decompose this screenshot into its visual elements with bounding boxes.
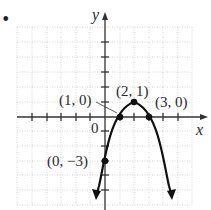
y-axis-label: y: [90, 6, 100, 24]
leader-line: [96, 102, 117, 113]
point-y-intercept: [102, 158, 109, 165]
label-x-intercept-1: (1, 0): [59, 92, 92, 109]
origin-label: 0: [91, 120, 99, 136]
x-axis: [17, 114, 208, 120]
label-y-intercept: (0, −3): [47, 153, 88, 170]
point-x-intercept-1: [117, 114, 124, 121]
arrow-down-right-icon: [167, 189, 176, 200]
x-axis-label: x: [195, 121, 203, 138]
parabola-graph: y x 0 (2, 1) (1, 0) (3, 0) (0, −3): [0, 0, 211, 210]
point-vertex: [131, 99, 138, 106]
point-x-intercept-3: [146, 114, 153, 121]
label-vertex: (2, 1): [116, 83, 149, 100]
arrow-down-left-icon: [92, 189, 101, 200]
label-x-intercept-3: (3, 0): [155, 94, 188, 111]
